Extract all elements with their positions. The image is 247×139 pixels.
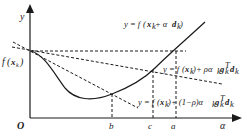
eq2-mid: + ρα — [196, 64, 213, 74]
objective-equation: y = f ( x k + α d k ) — [123, 19, 183, 31]
tick-b-label: b — [109, 121, 114, 131]
eq1-prefix: y = f — [123, 19, 142, 29]
fxk-k: k — [16, 62, 19, 68]
upper-line-equation: y = f ( x k ) + ρα k g k T d k — [162, 60, 239, 76]
y-axis-label: y — [19, 11, 25, 22]
alpha-axis-label: α — [220, 120, 226, 131]
eq2-prefix: y = f — [162, 64, 181, 74]
fxk-f: f — [2, 56, 6, 67]
fxk-label: f ( x k ) — [2, 56, 24, 68]
tick-c-label: c — [148, 121, 152, 131]
eq3-mid: + (1−ρ)α — [171, 97, 204, 107]
lower-line-equation: y = f ( x k ) + (1−ρ)α k g k T d k — [137, 93, 234, 109]
y-axis-arrow-icon — [26, 4, 34, 13]
line-search-diagram: y O α b c a f ( x k ) y = f ( x k + α d … — [0, 0, 247, 139]
fxk-paren-close: ) — [19, 56, 24, 68]
lower-line-one-minus-rho — [13, 42, 138, 108]
eq3-dk: k — [230, 99, 234, 109]
origin-label: O — [17, 120, 24, 131]
eq3-prefix: y = f — [137, 97, 156, 107]
x-axis-arrow-icon — [232, 114, 242, 122]
eq2-dk: k — [235, 66, 239, 76]
tick-a-label: a — [171, 121, 176, 131]
eq1-plus-alpha: + α — [155, 19, 168, 29]
objective-curve — [31, 22, 205, 99]
eq1-paren-close: ) — [179, 19, 183, 29]
